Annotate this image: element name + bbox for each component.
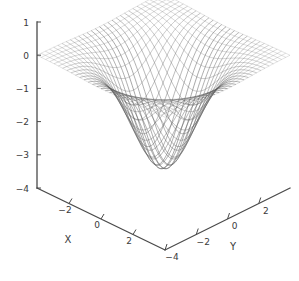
x-tick-label: 0 [94,220,100,230]
z-tick-label: 1 [23,18,29,28]
mesh-line [156,51,281,113]
y-tick-label: 0 [232,221,238,231]
mesh-line [129,11,257,91]
mesh-line [63,6,188,68]
z-tick-label: −2 [16,117,29,127]
y-tick-label: 2 [263,206,269,216]
x-axis-tick [133,230,136,235]
y-tick-label: −4 [165,252,179,262]
z-tick-label: −3 [16,150,29,160]
z-tick-label: −4 [16,184,30,194]
z-tick-label: 0 [23,51,29,61]
x-tick-label: 2 [126,236,132,246]
mesh-line [50,0,175,62]
mesh-line [125,13,253,105]
y-tick-label: −2 [197,237,210,247]
y-axis-label: Y [229,241,237,252]
mesh-line [62,43,190,105]
z-tick-label: −1 [16,84,29,94]
x-axis-tick [101,214,104,219]
mesh-line [158,0,286,57]
x-axis-tick [69,199,72,204]
plot-canvas: 10−1−2−3−4−202X−4−202Y [0,0,299,281]
mesh-line [41,0,166,57]
x-tick-label: −2 [58,205,71,215]
axes-group [37,22,290,250]
mesh-line [37,0,162,55]
axis-labels-group: 10−1−2−3−4−202X−4−202Y [16,18,269,263]
x-axis-label: X [65,234,72,245]
surface-plot-figure: 10−1−2−3−4−202X−4−202Y [0,0,299,281]
mesh-line [120,16,248,120]
surface-mesh [37,0,290,169]
